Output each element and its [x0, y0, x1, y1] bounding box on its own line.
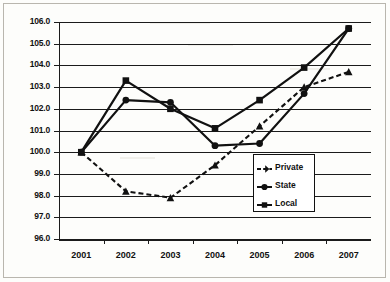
legend-label-private: Private — [275, 162, 303, 172]
y-axis-tick — [54, 131, 60, 132]
gridline — [59, 87, 371, 88]
x-axis-tick — [148, 239, 149, 244]
gridline — [59, 65, 371, 66]
y-axis-tick — [54, 22, 60, 23]
state-marker-icon — [257, 179, 274, 191]
y-axis-tick — [54, 44, 60, 45]
x-axis-tick — [282, 239, 283, 244]
y-axis-tick — [54, 65, 60, 66]
y-axis-tick-label: 101.0 — [2, 125, 50, 135]
chart-screenshot: 96.097.098.099.0100.0101.0102.0103.0104.… — [0, 0, 390, 282]
y-axis-tick — [54, 87, 60, 88]
y-axis-tick-label: 106.0 — [2, 16, 50, 26]
x-axis-tick — [193, 239, 194, 244]
gridline — [59, 217, 371, 218]
x-axis-tick — [237, 239, 238, 244]
legend-label-local: Local — [275, 198, 297, 208]
y-axis-tick — [54, 152, 60, 153]
y-axis-tick-label: 105.0 — [2, 38, 50, 48]
x-axis-tick-label: 2007 — [319, 250, 379, 260]
y-axis-tick-label: 99.0 — [2, 168, 50, 178]
gridline — [59, 131, 371, 132]
chart-legend: Private State Local — [253, 154, 315, 212]
y-axis-tick — [54, 196, 60, 197]
gridline — [59, 22, 371, 23]
legend-item-private: Private — [257, 158, 314, 176]
gridline — [59, 174, 371, 175]
x-axis-line — [59, 239, 371, 241]
x-axis-tick — [104, 239, 105, 244]
y-axis-tick-label: 104.0 — [2, 59, 50, 69]
y-axis-tick — [54, 239, 60, 240]
y-axis-tick — [54, 109, 60, 110]
legend-item-state: State — [257, 176, 314, 194]
y-axis-tick-label: 100.0 — [2, 146, 50, 156]
gridline — [59, 152, 371, 153]
private-marker-icon — [257, 161, 274, 173]
y-axis-tick-label: 102.0 — [2, 103, 50, 113]
y-axis-tick-label: 98.0 — [2, 190, 50, 200]
y-axis-tick-label: 96.0 — [2, 233, 50, 243]
legend-item-local: Local — [257, 194, 314, 212]
y-axis-tick-label: 97.0 — [2, 211, 50, 221]
x-axis-tick — [326, 239, 327, 244]
legend-label-state: State — [275, 180, 296, 190]
gridline — [59, 109, 371, 110]
y-axis-tick-label: 103.0 — [2, 81, 50, 91]
y-axis-tick — [54, 217, 60, 218]
y-axis-tick — [54, 174, 60, 175]
gridline — [59, 196, 371, 197]
gridline — [59, 44, 371, 45]
local-marker-icon — [257, 197, 274, 209]
